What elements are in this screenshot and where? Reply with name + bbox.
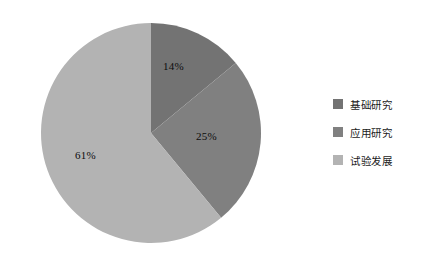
legend-label-experimental-development: 试验发展 xyxy=(350,153,392,168)
pie-slice-group xyxy=(41,23,261,243)
slice-label-applied-research: 25% xyxy=(196,131,217,142)
legend-swatch-icon-experimental-development xyxy=(333,155,343,165)
slice-label-experimental-development: 61% xyxy=(75,150,96,161)
legend-label-basic-research: 基础研究 xyxy=(350,97,392,112)
legend-item-basic-research[interactable]: 基础研究 xyxy=(333,90,426,118)
legend-item-experimental-development[interactable]: 试验发展 xyxy=(333,146,426,174)
pie-chart-figure: 14% 25% 61% 基础研究 应用研究 试验发展 xyxy=(0,0,426,257)
slice-label-basic-research: 14% xyxy=(163,61,184,72)
legend-swatch-icon-basic-research xyxy=(333,99,343,109)
chart-legend: 基础研究 应用研究 试验发展 xyxy=(333,90,426,174)
pie-chart-plot-area: 14% 25% 61% xyxy=(0,0,300,257)
legend-item-applied-research[interactable]: 应用研究 xyxy=(333,118,426,146)
legend-swatch-icon-applied-research xyxy=(333,127,343,137)
pie-chart-svg xyxy=(0,0,300,257)
legend-label-applied-research: 应用研究 xyxy=(350,125,392,140)
